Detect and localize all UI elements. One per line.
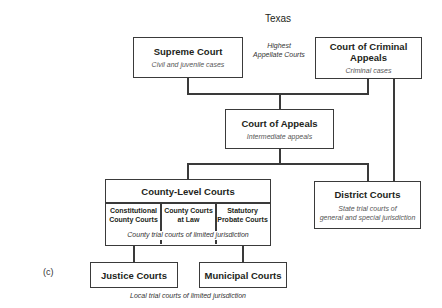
- district-courts-title: District Courts: [335, 189, 401, 200]
- connector: [242, 245, 244, 262]
- court-of-appeals-subtitle: Intermediate appeals: [247, 132, 312, 141]
- county-column-at-law: County Courtsat Law: [161, 203, 216, 228]
- connector: [367, 79, 369, 94]
- supreme-court-subtitle: Civil and juvenile cases: [152, 60, 225, 69]
- supreme-court-box: Supreme Court Civil and juvenile cases: [133, 37, 243, 78]
- connector: [187, 163, 189, 180]
- highest-note-line2: Appellate Courts: [245, 51, 313, 60]
- panel-label: (c): [43, 267, 54, 277]
- highest-note-line1: Highest: [245, 42, 313, 51]
- supreme-court-title: Supreme Court: [154, 46, 223, 57]
- district-courts-box: District Courts State trial courts of ge…: [314, 181, 421, 229]
- connector: [187, 78, 189, 94]
- district-subtitle-line1: State trial courts of: [320, 204, 416, 213]
- county-level-columns: ConstitutionalCounty Courts County Court…: [106, 203, 270, 228]
- connector: [187, 163, 369, 165]
- col-line1: Constitutional: [109, 206, 158, 215]
- connector: [133, 245, 135, 262]
- connector: [367, 163, 369, 182]
- municipal-courts-box: Municipal Courts: [199, 262, 287, 288]
- criminal-appeals-box: Court of Criminal Appeals Criminal cases: [315, 37, 422, 79]
- connector: [279, 149, 281, 164]
- justice-courts-title: Justice Courts: [101, 270, 167, 281]
- col-line2: at Law: [164, 215, 213, 224]
- county-level-box: County-Level Courts ConstitutionalCounty…: [105, 179, 271, 246]
- municipal-courts-title: Municipal Courts: [204, 270, 281, 281]
- county-level-caption: County trial courts of limited jurisdict…: [106, 231, 270, 240]
- local-courts-caption: Local trial courts of limited jurisdicti…: [110, 292, 266, 301]
- county-column-probate: StatutoryProbate Courts: [216, 203, 269, 228]
- justice-courts-box: Justice Courts: [90, 262, 178, 288]
- connector: [279, 93, 281, 109]
- diagram-title: Texas: [238, 13, 318, 24]
- court-of-appeals-title: Court of Appeals: [241, 118, 317, 129]
- col-line1: Statutory: [217, 206, 268, 215]
- col-line2: County Courts: [109, 215, 158, 224]
- connector: [187, 93, 369, 95]
- court-of-appeals-box: Court of Appeals Intermediate appeals: [225, 109, 334, 149]
- county-column-constitutional: ConstitutionalCounty Courts: [106, 203, 161, 228]
- connector: [393, 79, 395, 182]
- district-courts-subtitle: State trial courts of general and specia…: [320, 204, 416, 222]
- criminal-appeals-title: Court of Criminal Appeals: [316, 41, 421, 63]
- col-line2: Probate Courts: [217, 215, 268, 224]
- col-line1: County Courts: [164, 206, 213, 215]
- county-level-title: County-Level Courts: [106, 186, 270, 197]
- district-subtitle-line2: general and special jurisdiction: [320, 213, 416, 222]
- criminal-appeals-subtitle: Criminal cases: [346, 66, 392, 75]
- highest-appellate-note: Highest Appellate Courts: [245, 42, 313, 59]
